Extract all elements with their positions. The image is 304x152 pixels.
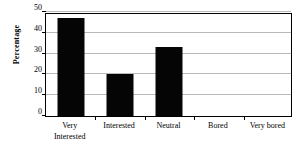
x-tick-label-line: Bored xyxy=(208,121,228,130)
x-tick-label: Very bored xyxy=(243,120,292,131)
x-tick-label-line: Very bored xyxy=(250,121,285,130)
y-tick-label: 20 xyxy=(8,66,42,74)
bar-slot xyxy=(194,14,243,116)
x-tick-label-line: Very xyxy=(62,121,77,130)
bar xyxy=(57,18,84,116)
bar xyxy=(107,74,134,116)
bar-slot xyxy=(46,14,95,116)
x-tick-label-line: Neutral xyxy=(156,121,180,130)
gridline xyxy=(46,11,291,12)
x-tick-label-line: Interested xyxy=(103,121,135,130)
x-tick-label: Bored xyxy=(193,120,242,131)
y-tick-label: 50 xyxy=(8,4,42,12)
bar-slot xyxy=(95,14,144,116)
y-tick-mark xyxy=(42,11,46,12)
y-tick-label: 10 xyxy=(8,87,42,95)
y-tick-label: 0 xyxy=(8,108,42,116)
bar xyxy=(156,47,183,116)
x-axis-labels: VeryInterestedInterestedNeutralBoredVery… xyxy=(45,120,292,150)
bar-slot xyxy=(244,14,293,116)
x-tick-label: Neutral xyxy=(144,120,193,131)
plot-area: 01020304050 xyxy=(45,13,292,117)
x-tick-label: Interested xyxy=(94,120,143,131)
y-tick-label: 30 xyxy=(8,46,42,54)
bar-series xyxy=(46,14,291,116)
bar-chart: Percentage 01020304050 VeryInterestedInt… xyxy=(0,0,304,152)
bar-slot xyxy=(145,14,194,116)
x-tick-label: VeryInterested xyxy=(45,120,94,142)
x-tick-label-line: Interested xyxy=(45,131,94,142)
y-tick-label: 40 xyxy=(8,25,42,33)
